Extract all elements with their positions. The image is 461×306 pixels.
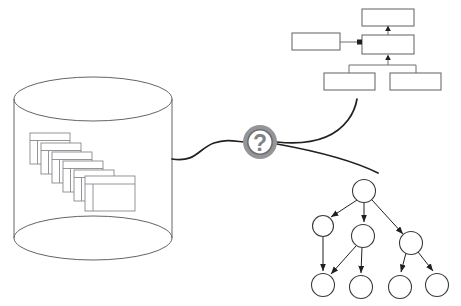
tree-edge-n2-l2 — [361, 247, 362, 273]
document-stack — [30, 133, 135, 211]
question-mark-node[interactable]: ? — [243, 125, 277, 159]
flowchart-box-left[interactable] — [292, 33, 340, 50]
flowchart-box-top[interactable] — [362, 9, 414, 26]
flowchart-box-center[interactable] — [362, 35, 414, 54]
tree-edge-n2-l1 — [331, 246, 356, 274]
connector-database-to-query — [172, 141, 244, 160]
tree-node-l2[interactable] — [350, 276, 373, 299]
connector-query-to-flowchart — [277, 99, 357, 143]
connector-query-to-tree — [277, 144, 378, 173]
cylinder-bottom-arc-front — [14, 238, 172, 260]
tree-node-n3[interactable] — [400, 232, 423, 255]
tree-node-n2[interactable] — [352, 225, 375, 248]
tree-edge-n3-l4 — [418, 252, 433, 271]
tree-edge-root-n3 — [372, 200, 403, 234]
flowchart-arrowhead-center — [385, 55, 391, 61]
cylinder-bottom-arc-back — [14, 216, 172, 238]
flowchart-square-connector — [357, 40, 362, 45]
question-mark-icon: ? — [253, 130, 267, 156]
document-database-cylinder — [14, 77, 172, 260]
document-icon — [85, 176, 135, 211]
cylinder-top-ellipse — [14, 77, 172, 121]
tree-node-l1[interactable] — [312, 274, 335, 297]
diagram-canvas: ? — [0, 0, 461, 306]
uml-flowchart — [292, 9, 441, 90]
tree-node-l4[interactable] — [426, 274, 449, 297]
tree-node-root[interactable] — [353, 180, 376, 203]
tree-node-n1[interactable] — [313, 216, 334, 237]
tree-edge-n3-l3 — [401, 253, 406, 272]
tree-node-l3[interactable] — [389, 276, 412, 299]
tree-edge-root-n1 — [331, 200, 357, 217]
flowchart-box-bottom-right[interactable] — [390, 73, 441, 90]
flowchart-box-bottom-left[interactable] — [324, 73, 375, 90]
tree-graph — [312, 180, 449, 299]
